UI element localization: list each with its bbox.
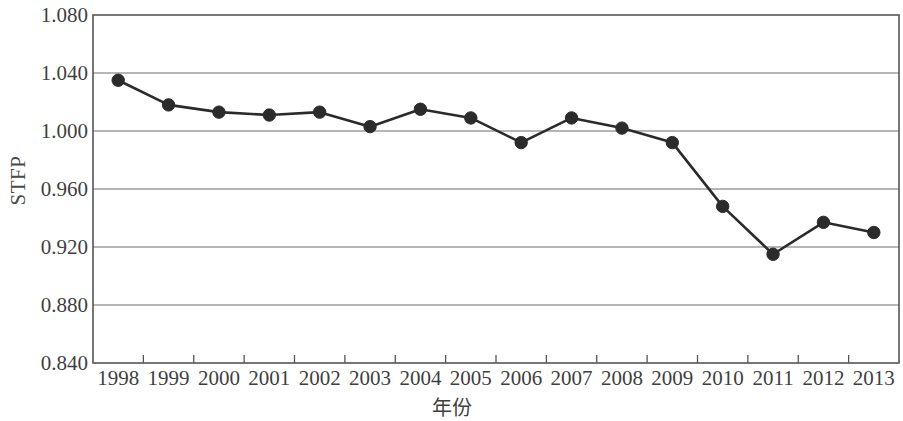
series-line [118, 80, 874, 254]
x-tickmarks-group [143, 355, 848, 363]
plot-area [0, 0, 903, 421]
chart-container: STFP 0.8400.8800.9200.9601.0001.0401.080… [0, 0, 903, 421]
data-point-marker[interactable] [112, 74, 124, 86]
data-point-marker[interactable] [817, 216, 829, 228]
data-point-marker[interactable] [414, 103, 426, 115]
data-point-marker[interactable] [565, 112, 577, 124]
data-point-marker[interactable] [162, 99, 174, 111]
data-point-marker[interactable] [767, 248, 779, 260]
data-point-marker[interactable] [868, 226, 880, 238]
data-point-marker[interactable] [313, 106, 325, 118]
data-point-marker[interactable] [263, 109, 275, 121]
data-point-marker[interactable] [616, 122, 628, 134]
data-point-marker[interactable] [213, 106, 225, 118]
x-axis-tick-label: 2013 [844, 366, 903, 391]
x-axis-title: 年份 [0, 392, 903, 421]
data-point-marker[interactable] [364, 120, 376, 132]
data-point-marker[interactable] [515, 136, 527, 148]
data-point-marker[interactable] [666, 136, 678, 148]
data-point-marker[interactable] [716, 200, 728, 212]
series-group [112, 74, 880, 260]
data-point-marker[interactable] [465, 112, 477, 124]
